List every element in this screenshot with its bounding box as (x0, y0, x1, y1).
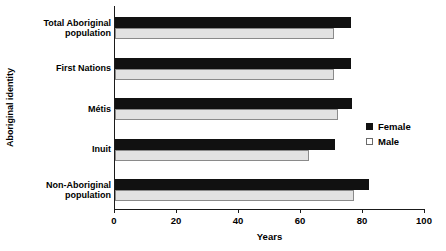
x-tick-60 (300, 209, 301, 213)
y-axis-title: Aboriginal identity (3, 0, 17, 215)
category-label-metis: Métis (18, 104, 111, 115)
x-tick-label-40: 40 (218, 215, 258, 226)
x-tick-0 (114, 209, 115, 213)
x-tick-80 (362, 209, 363, 213)
x-tick-100 (424, 209, 425, 213)
x-tick-20 (176, 209, 177, 213)
category-label-first-nations: First Nations (18, 63, 111, 74)
category-label-non-aboriginal-population: Non-Aboriginalpopulation (18, 180, 111, 201)
bar-female-2 (115, 98, 352, 109)
bar-male-1 (115, 69, 334, 80)
bar-male-4 (115, 190, 354, 201)
x-tick-label-100: 100 (404, 215, 444, 226)
x-tick-label-0: 0 (94, 215, 134, 226)
legend-item-female: Female (366, 120, 411, 133)
category-label-inuit: Inuit (18, 144, 111, 155)
plot-area (114, 6, 425, 209)
legend: Female Male (366, 120, 411, 150)
outlined-square-icon (366, 138, 373, 145)
bar-male-3 (115, 150, 309, 161)
category-label-total-aboriginal-population: Total Aboriginalpopulation (18, 18, 111, 39)
y-axis-category-labels: Total Aboriginalpopulation First Nations… (18, 6, 111, 209)
x-axis-line (114, 209, 425, 210)
bar-male-2 (115, 109, 338, 120)
bar-chart: Aboriginal identity Total Aboriginalpopu… (0, 0, 446, 251)
x-tick-label-80: 80 (342, 215, 382, 226)
legend-label-female: Female (378, 121, 411, 132)
bar-female-1 (115, 58, 351, 69)
filled-square-icon (366, 123, 373, 130)
bar-male-0 (115, 28, 334, 39)
x-tick-40 (238, 209, 239, 213)
bar-female-0 (115, 17, 351, 28)
bar-female-3 (115, 139, 335, 150)
legend-label-male: Male (378, 136, 399, 147)
x-tick-label-20: 20 (156, 215, 196, 226)
x-axis-title: Years (114, 231, 425, 242)
legend-item-male: Male (366, 135, 411, 148)
bar-female-4 (115, 179, 369, 190)
x-tick-label-60: 60 (280, 215, 320, 226)
